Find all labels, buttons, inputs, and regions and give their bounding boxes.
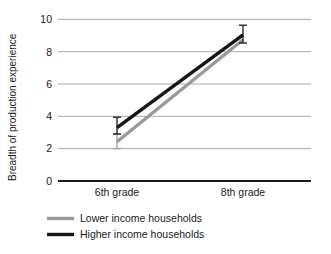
x-category-label-8th-grade: 8th grade (221, 186, 266, 198)
y-tick-label-6: 6 (46, 78, 52, 90)
legend-label-higher-income: Higher income households (80, 228, 204, 240)
y-tick-label-0: 0 (46, 175, 52, 187)
y-tick-label-10: 10 (40, 13, 52, 25)
line-chart: 10 8 6 4 2 0 Breadth of production exper… (0, 0, 331, 254)
y-tick-label-8: 8 (46, 46, 52, 58)
y-tick-label-4: 4 (46, 110, 52, 122)
y-tick-label-2: 2 (46, 142, 52, 154)
legend-label-lower-income: Lower income households (80, 212, 202, 224)
chart-container: 10 8 6 4 2 0 Breadth of production exper… (0, 0, 331, 254)
y-axis-title: Breadth of production experience (7, 33, 18, 181)
x-category-label-6th-grade: 6th grade (95, 186, 140, 198)
